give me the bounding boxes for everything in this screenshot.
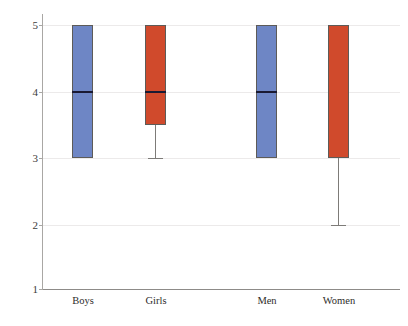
whisker-cap-women [331, 225, 346, 226]
y-tick-label-3: 3 [24, 153, 38, 164]
whisker-cap-girls [148, 158, 163, 159]
y-tick-label-2: 2 [24, 220, 38, 231]
gridline-3 [42, 158, 400, 159]
x-label-women: Women [313, 296, 365, 307]
whisker-line-girls [155, 125, 156, 158]
y-tick-mark-4 [39, 92, 43, 93]
x-axis-line [42, 289, 400, 290]
x-label-girls: Girls [131, 296, 181, 307]
box-women [328, 25, 349, 158]
y-tick-label-1: 1 [24, 284, 38, 295]
median-line-men [256, 91, 277, 93]
y-tick-label-4: 4 [24, 87, 38, 98]
y-tick-mark-1 [39, 289, 43, 290]
box-plot-chart: 5 4 3 2 1 Boys Girls Men Women [0, 0, 408, 326]
median-line-girls [145, 91, 166, 93]
y-tick-mark-5 [39, 25, 43, 26]
box-girls [145, 25, 166, 125]
x-label-men: Men [242, 296, 292, 307]
y-tick-mark-2 [39, 225, 43, 226]
gridline-2 [42, 225, 400, 226]
y-axis-line [42, 14, 43, 290]
y-tick-mark-3 [39, 158, 43, 159]
whisker-line-women [338, 158, 339, 225]
y-tick-label-5: 5 [24, 20, 38, 31]
median-line-boys [72, 91, 93, 93]
x-label-boys: Boys [58, 296, 108, 307]
